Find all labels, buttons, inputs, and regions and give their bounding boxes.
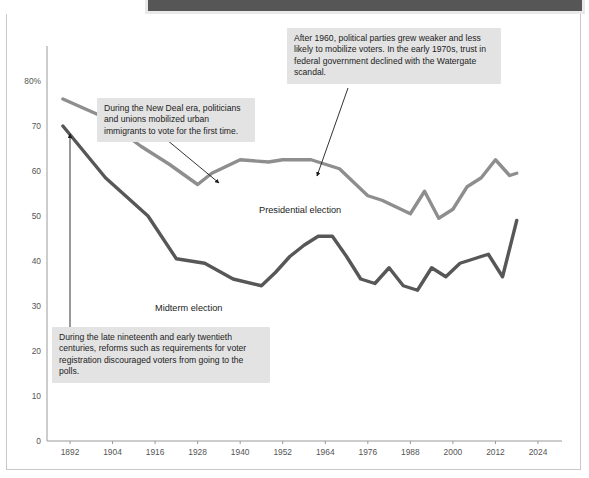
- x-tick-label-1976: 1976: [348, 447, 388, 457]
- leader-line-new-deal: [167, 140, 219, 183]
- series-label-midterm: Midterm election: [155, 303, 222, 313]
- x-tick-label-1928: 1928: [178, 447, 218, 457]
- x-tick-label-1964: 1964: [305, 447, 345, 457]
- annotation-new-deal: During the New Deal era, politicians and…: [97, 98, 255, 142]
- x-tick-label-1892: 1892: [50, 447, 90, 457]
- y-tick-label-40: 40: [5, 256, 41, 266]
- y-tick-label-80: 80%: [5, 76, 41, 86]
- y-tick-label-70: 70: [5, 121, 41, 131]
- y-tick-label-10: 10: [5, 391, 41, 401]
- x-tick-label-2012: 2012: [475, 447, 515, 457]
- annotation-watergate: After 1960, political parties grew weake…: [287, 28, 501, 84]
- y-tick-label-20: 20: [5, 346, 41, 356]
- x-tick-label-2000: 2000: [433, 447, 473, 457]
- x-tick-label-1988: 1988: [390, 447, 430, 457]
- x-tick-label-1916: 1916: [135, 447, 175, 457]
- y-tick-label-0: 0: [5, 436, 41, 446]
- annotation-reforms: During the late nineteenth and early twe…: [52, 327, 270, 383]
- leader-line-watergate: [317, 88, 348, 176]
- chart-figure: After 1960, political parties grew weake…: [0, 0, 589, 478]
- y-tick-label-60: 60: [5, 166, 41, 176]
- x-tick-label-1952: 1952: [263, 447, 303, 457]
- y-tick-label-50: 50: [5, 211, 41, 221]
- x-tick-label-1904: 1904: [93, 447, 133, 457]
- x-tick-label-1940: 1940: [220, 447, 260, 457]
- y-tick-label-30: 30: [5, 301, 41, 311]
- x-tick-label-2024: 2024: [518, 447, 558, 457]
- series-label-presidential: Presidential election: [259, 205, 341, 215]
